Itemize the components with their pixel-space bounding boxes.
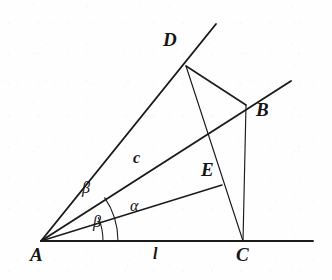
ray-A-D bbox=[41, 24, 216, 241]
segment-label-c: c bbox=[133, 150, 140, 166]
vertex-label-C: C bbox=[236, 245, 249, 264]
vertex-label-B: B bbox=[256, 100, 269, 119]
ray-A-B bbox=[41, 81, 291, 241]
vertex-label-E: E bbox=[201, 160, 214, 179]
angle-label-beta-upper: β bbox=[82, 180, 90, 196]
segment-B-C bbox=[243, 105, 246, 241]
vertex-label-A: A bbox=[30, 245, 43, 264]
geometry-figure: A B C D E c l β α β bbox=[0, 0, 332, 280]
vertex-label-D: D bbox=[163, 30, 177, 49]
segment-D-C bbox=[186, 66, 243, 241]
angle-label-alpha: α bbox=[130, 198, 138, 214]
segment-D-B bbox=[186, 66, 246, 105]
segment-label-l: l bbox=[153, 246, 157, 262]
angle-label-beta-lower: β bbox=[93, 214, 101, 230]
